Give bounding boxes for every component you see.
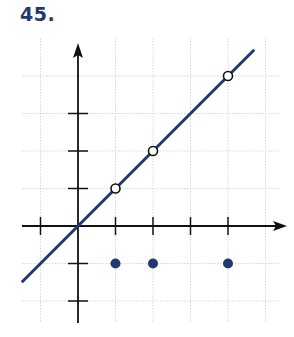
coordinate-plot <box>0 0 294 337</box>
grid-lines <box>22 38 280 322</box>
axes <box>22 43 287 323</box>
line-y-equals-x <box>22 50 255 283</box>
filled-point <box>111 259 121 269</box>
plot-series <box>22 50 255 283</box>
open-point <box>149 147 158 156</box>
filled-point <box>148 259 158 269</box>
filled-point <box>223 259 233 269</box>
open-point <box>224 72 233 81</box>
open-point <box>111 184 120 193</box>
